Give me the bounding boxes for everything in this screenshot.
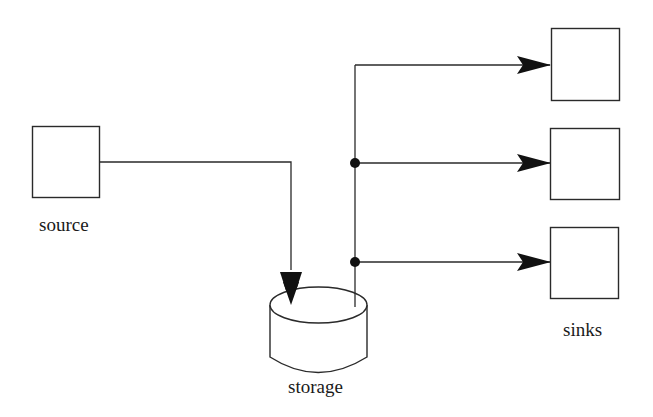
source-label: source [39,214,89,236]
sink-node-1 [552,29,620,101]
sink-node-2 [551,129,620,200]
storage-label: storage [288,376,343,398]
junction-dot-icon [350,158,360,168]
source-node [33,127,100,198]
storage-node [270,287,367,373]
junction-dot-icon [350,257,360,267]
edge-source-storage [99,162,291,270]
diagram-canvas: source storage sinks [0,0,653,417]
sink-node-3 [551,228,619,299]
sinks-label: sinks [563,319,602,341]
diagram-svg [0,0,653,417]
